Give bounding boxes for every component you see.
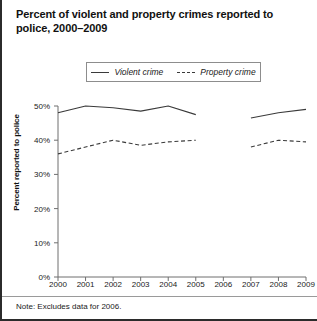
x-axis-tick-label: 2001: [71, 280, 101, 289]
chart-plot-area: [2, 0, 317, 321]
note-divider: [2, 296, 317, 297]
series-line: [58, 140, 196, 154]
x-axis-tick-label: 2007: [236, 280, 266, 289]
x-axis-tick-label: 2005: [181, 280, 211, 289]
x-axis-tick-label: 2002: [98, 280, 128, 289]
x-axis-tick-label: 2003: [126, 280, 156, 289]
chart-figure: Percent of violent and property crimes r…: [0, 0, 317, 321]
x-axis-tick-label: 2009: [291, 280, 317, 289]
axis-lines: [58, 106, 306, 277]
chart-note: Note: Excludes data for 2006.: [16, 302, 121, 311]
data-series-lines: [58, 106, 306, 154]
series-line: [251, 109, 306, 118]
series-line: [58, 106, 196, 115]
x-axis-tick-label: 2008: [263, 280, 293, 289]
x-axis-tick-label: 2006: [208, 280, 238, 289]
series-line: [251, 140, 306, 147]
y-axis-ticks: [54, 106, 58, 277]
x-axis-tick-label: 2000: [43, 280, 73, 289]
x-axis-tick-label: 2004: [153, 280, 183, 289]
